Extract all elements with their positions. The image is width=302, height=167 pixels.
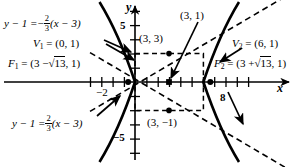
hyperbola-figure: y − 1 =−23(x − 3) y − 1 =23(x − 3) V1 = … <box>0 0 302 167</box>
x-tick-label-8: 8 <box>220 92 226 103</box>
focus-1-radicand: 13 <box>54 56 65 69</box>
focus-1-equals: = <box>21 57 27 69</box>
focus-2-equals: = <box>227 57 233 69</box>
x-axis-label: x <box>277 82 283 94</box>
point-3-minus-1-label: (3, −1) <box>147 117 177 128</box>
point-3-3-dot <box>166 51 172 57</box>
vertex-2-equals: = <box>245 37 251 49</box>
focus-2-dot <box>207 79 213 85</box>
focus-2-symbol: F2 <box>214 57 225 69</box>
x-tick-label-neg2: −2 <box>96 87 108 98</box>
vertex-1-coords: (0, 1) <box>55 37 79 49</box>
asymptote-negative-equation: y − 1 =−23(x − 3) <box>4 14 81 32</box>
vertex-2-symbol: V2 <box>232 37 243 49</box>
vertex-1-equals: = <box>46 37 52 49</box>
vertex-1-symbol: V1 <box>33 37 44 49</box>
y-tick-label-5: 5 <box>120 20 126 31</box>
focus-1-close: , 1) <box>65 57 80 69</box>
focus-2-radical: √13 <box>254 58 271 69</box>
asym-pos-rhs: (x − 3) <box>52 117 83 129</box>
focus-2-close: , 1) <box>271 57 286 69</box>
vertex-2-label: V2 = (6, 1) <box>232 38 278 51</box>
point-3-3-label: (3, 3) <box>139 33 163 44</box>
focus-2-open: (3 + <box>236 57 254 69</box>
asym-neg-lhs: y − 1 = <box>4 17 37 29</box>
focus-1-label: F1 = (3 −√13, 1) <box>8 58 80 71</box>
focus-1-open: (3 − <box>30 57 48 69</box>
vertex-1-label: V1 = (0, 1) <box>33 38 79 51</box>
vertex-2-subscript: 2 <box>239 42 243 51</box>
vertex-2-coords: (6, 1) <box>254 37 278 49</box>
focus-2-label: F2 = (3 +√13, 1) <box>214 58 286 71</box>
asymptote-positive-equation: y − 1 =23(x − 3) <box>12 114 82 132</box>
center-dot <box>166 79 172 85</box>
asym-pos-lhs: y − 1 = <box>12 117 45 129</box>
focus-2-subscript: 2 <box>221 62 225 71</box>
focus-1-symbol: F1 <box>8 57 19 69</box>
asym-neg-rhs: (x − 3) <box>50 17 81 29</box>
point-3-m1-dot <box>166 108 172 114</box>
focus-1-radical: √13 <box>48 58 65 69</box>
y-tick-label-neg5: −5 <box>113 132 125 143</box>
focus-2-radicand: 13 <box>260 56 271 69</box>
vertex-1-subscript: 1 <box>40 42 44 51</box>
asymptote-pos-leader <box>228 92 243 124</box>
focus-1-dot <box>125 79 131 85</box>
y-axis-label: y <box>126 1 131 13</box>
center-point-label: (3, 1) <box>180 10 204 21</box>
focus-1-subscript: 1 <box>15 62 19 71</box>
